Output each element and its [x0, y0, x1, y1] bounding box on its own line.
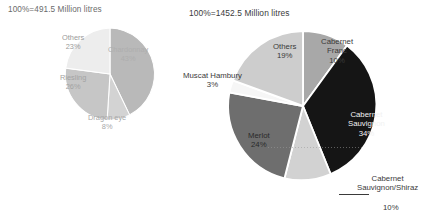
left-pie-svg	[62, 26, 158, 122]
left-slice-riesling	[65, 68, 110, 120]
right-label-cabernet-shiraz-line2: Sauvignon/Shiraz	[357, 183, 418, 192]
left-pie-chart	[62, 26, 158, 122]
two-pie-charts-figure: 100%=491.5 Million litres Chardonnay 43%…	[0, 0, 436, 221]
right-pie-svg	[225, 28, 381, 184]
left-chart-title: 100%=491.5 Million litres	[8, 5, 102, 14]
left-label-dragon-eye-pct: 8%	[88, 122, 126, 131]
left-slice-others	[66, 28, 110, 74]
right-chart-title: 100%=1452.5 Million litres	[189, 8, 290, 18]
cabernet-shiraz-leader-line	[339, 194, 369, 195]
merlot-hairline	[268, 147, 364, 148]
right-pie-chart	[225, 28, 381, 184]
right-label-cabernet-shiraz-pct: 10%	[383, 203, 399, 212]
